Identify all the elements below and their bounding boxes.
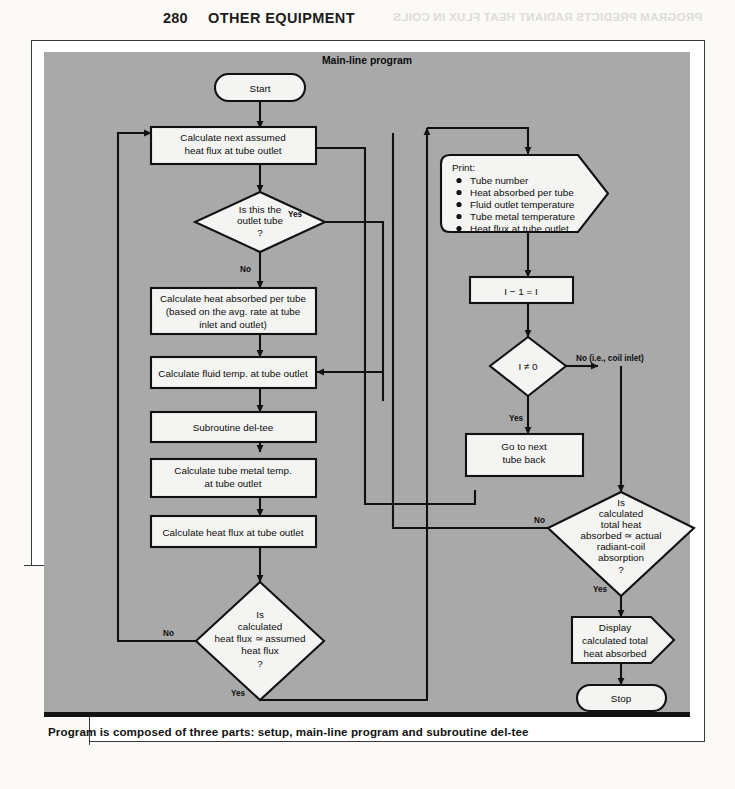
node-print-header: Print: <box>452 162 475 173</box>
bullet-icon <box>456 214 461 219</box>
node-calc-metal-temp-line2: at tube outlet <box>204 478 261 489</box>
node-display-total-line2: calculated total <box>582 635 648 646</box>
node-print: Print: Tube number Heat absorbed per tub… <box>441 155 608 234</box>
label-yes-flux: Yes <box>231 689 246 698</box>
label-no-total: No <box>534 516 545 525</box>
node-is-total-heat-line4: absorbed ≃ actual <box>580 530 661 541</box>
flowchart-svg: Start Calculate next assumed heat flux a… <box>0 0 735 789</box>
bullet-icon <box>456 178 461 183</box>
node-is-flux-converged-line3: heat flux ≃ assumed <box>215 633 306 644</box>
bullet-icon <box>456 190 461 195</box>
bullet-icon <box>456 226 461 231</box>
node-calc-metal-temp-line1: Calculate tube metal temp. <box>174 465 291 476</box>
node-stop: Stop <box>577 685 666 711</box>
node-calc-next-flux-line2: heat flux at tube outlet <box>184 145 281 156</box>
figure-caption: Program is composed of three parts: setu… <box>48 725 688 738</box>
node-calc-heat-absorbed: Calculate heat absorbed per tube (based … <box>151 288 316 334</box>
node-start: Start <box>215 74 305 101</box>
node-calc-heat-absorbed-line2: (based on the avg. rate at tube <box>166 306 301 317</box>
node-decrement: I − 1 = I <box>470 277 573 303</box>
node-print-item-3: Tube metal temperature <box>470 211 576 222</box>
label-yes-i-not-zero: Yes <box>509 414 524 423</box>
node-calc-heat-flux-label: Calculate heat flux at tube outlet <box>162 527 303 538</box>
node-is-total-heat: Is calculated total heat absorbed ≃ actu… <box>534 492 694 596</box>
node-print-item-1: Heat absorbed per tube <box>470 187 574 198</box>
node-print-item-4: Heat flux at tube outlet <box>470 223 569 234</box>
node-is-total-heat-line2: calculated <box>599 508 643 519</box>
label-no-outlet: No <box>240 265 251 274</box>
node-go-next-tube: Go to next tube back <box>466 434 583 476</box>
node-subroutine-del-tee: Subroutine del-tee <box>151 412 316 442</box>
bullet-icon <box>456 202 461 207</box>
node-decrement-label: I − 1 = I <box>504 286 538 297</box>
page-root: 280 OTHER EQUIPMENT PROGRAM PREDICTS RAD… <box>0 0 735 789</box>
node-stop-label: Stop <box>611 693 632 704</box>
node-is-total-heat-line5: radiant-coil <box>597 541 645 552</box>
edge-topright-into-print <box>427 128 528 154</box>
node-is-flux-converged-line1: Is <box>256 609 264 620</box>
node-is-outlet-tube-line3: ? <box>257 227 263 238</box>
node-print-item-0: Tube number <box>470 175 529 186</box>
node-calc-metal-temp: Calculate tube metal temp. at tube outle… <box>151 459 316 497</box>
label-no-flux: No <box>163 629 174 638</box>
node-start-label: Start <box>250 83 271 94</box>
node-calc-next-flux: Calculate next assumed heat flux at tube… <box>151 127 316 164</box>
node-is-total-heat-line3: total heat <box>601 519 642 530</box>
node-display-total: Display calculated total heat absorbed <box>572 617 674 663</box>
node-is-total-heat-line7: ? <box>618 564 624 575</box>
node-is-flux-converged-line2: calculated <box>238 621 282 632</box>
node-go-next-tube-line2: tube back <box>503 454 546 465</box>
node-calc-next-flux-line1: Calculate next assumed <box>180 132 285 143</box>
node-is-flux-converged-line5: ? <box>257 658 263 669</box>
panel-title: Main-line program <box>322 55 412 66</box>
node-calc-fluid-temp: Calculate fluid temp. at tube outlet <box>151 357 316 388</box>
node-calc-heat-absorbed-line1: Calculate heat absorbed per tube <box>160 293 307 304</box>
node-is-outlet-tube-line1: Is this the <box>239 204 282 215</box>
label-yes-outlet: Yes <box>288 210 303 219</box>
node-is-flux-converged-line4: heat flux <box>241 645 278 656</box>
node-i-not-zero-label: I ≠ 0 <box>518 361 538 372</box>
node-calc-heat-flux: Calculate heat flux at tube outlet <box>151 516 316 547</box>
node-calc-fluid-temp-label: Calculate fluid temp. at tube outlet <box>158 368 308 379</box>
node-go-next-tube-line1: Go to next <box>501 441 547 452</box>
node-is-total-heat-line6: absorption <box>598 552 644 563</box>
label-no-coil-inlet: No (i.e., coil inlet) <box>576 354 644 363</box>
node-calc-heat-absorbed-line3: inlet and outlet) <box>199 319 267 330</box>
node-display-total-line3: heat absorbed <box>583 648 646 659</box>
node-is-outlet-tube-line2: outlet tube <box>237 215 284 226</box>
edge-outlet-yes-stem <box>325 222 383 401</box>
node-is-total-heat-line1: Is <box>617 497 625 508</box>
node-display-total-line1: Display <box>599 622 631 633</box>
label-yes-total: Yes <box>593 585 608 594</box>
node-subroutine-del-tee-label: Subroutine del-tee <box>193 422 274 433</box>
node-print-item-2: Fluid outlet temperature <box>470 199 575 210</box>
